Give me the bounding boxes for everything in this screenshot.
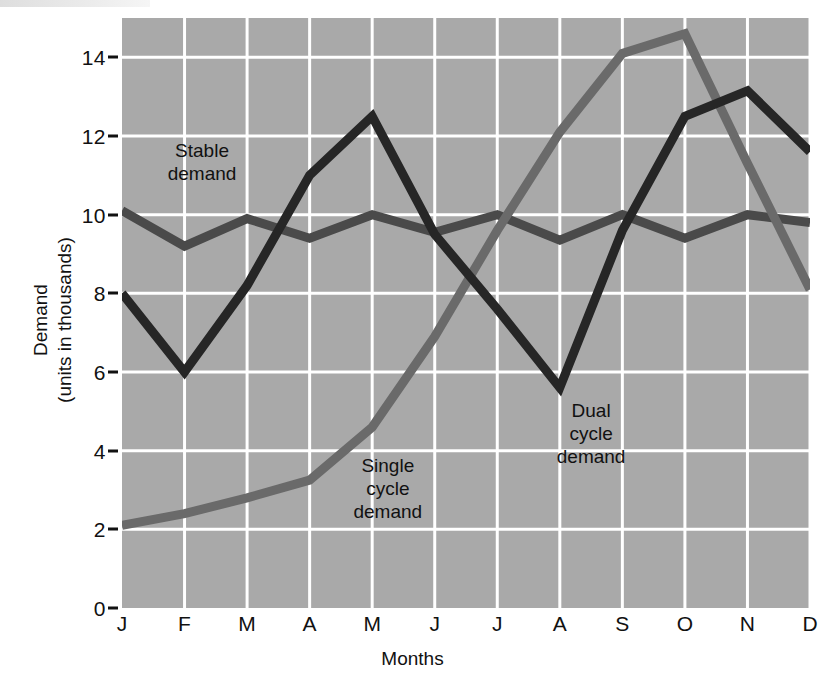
x-axis-tick-0-J: J xyxy=(117,612,128,636)
x-axis-tick-7-A: A xyxy=(553,612,567,636)
series-line-dual-cycle-demand xyxy=(122,91,810,388)
annotation-dual: Dual cycle demand xyxy=(557,398,626,467)
y-axis-tick-mark xyxy=(108,607,118,610)
y-axis-tick-8: 8 xyxy=(94,283,106,304)
x-axis-tick-labels: JFMAMJJASOND xyxy=(122,612,810,646)
x-axis-tick-9-O: O xyxy=(677,612,693,636)
y-axis-tick-mark xyxy=(108,528,118,531)
y-axis-tick-2: 2 xyxy=(94,519,106,540)
annotation-stable: Stable demand xyxy=(168,139,237,185)
x-axis-tick-10-N: N xyxy=(740,612,755,636)
x-axis-tick-5-J: J xyxy=(429,612,440,636)
y-axis-tick-labels: 02468101214 xyxy=(0,18,122,608)
x-axis-title: Months xyxy=(0,648,825,670)
plot-area: Stable demandSingle cycle demandDual cyc… xyxy=(122,18,810,608)
y-axis-tick-6: 6 xyxy=(94,362,106,383)
x-axis-tick-4-M: M xyxy=(363,612,381,636)
y-axis-tick-12: 12 xyxy=(82,126,106,147)
x-axis-tick-2-M: M xyxy=(238,612,256,636)
data-series-lines xyxy=(122,18,810,608)
y-axis-tick-mark xyxy=(108,56,118,59)
y-axis-tick-mark xyxy=(108,371,118,374)
y-axis-tick-4: 4 xyxy=(94,440,106,461)
x-axis-tick-1-F: F xyxy=(178,612,191,636)
y-axis-tick-14: 14 xyxy=(82,47,106,68)
y-axis-tick-mark xyxy=(108,292,118,295)
y-axis-tick-10: 10 xyxy=(82,204,106,225)
annotation-single: Single cycle demand xyxy=(353,454,422,523)
y-axis-tick-mark xyxy=(108,213,118,216)
x-axis-tick-6-J: J xyxy=(492,612,503,636)
x-axis-tick-11-D: D xyxy=(802,612,817,636)
demand-patterns-line-chart: Demand (units in thousands) 02468101214 … xyxy=(0,0,825,686)
y-axis-tick-0: 0 xyxy=(94,598,106,619)
series-line-stable-demand xyxy=(122,211,810,246)
x-axis-tick-3-A: A xyxy=(303,612,317,636)
y-axis-tick-mark xyxy=(108,135,118,138)
x-axis-tick-8-S: S xyxy=(615,612,629,636)
y-axis-tick-mark xyxy=(108,449,118,452)
